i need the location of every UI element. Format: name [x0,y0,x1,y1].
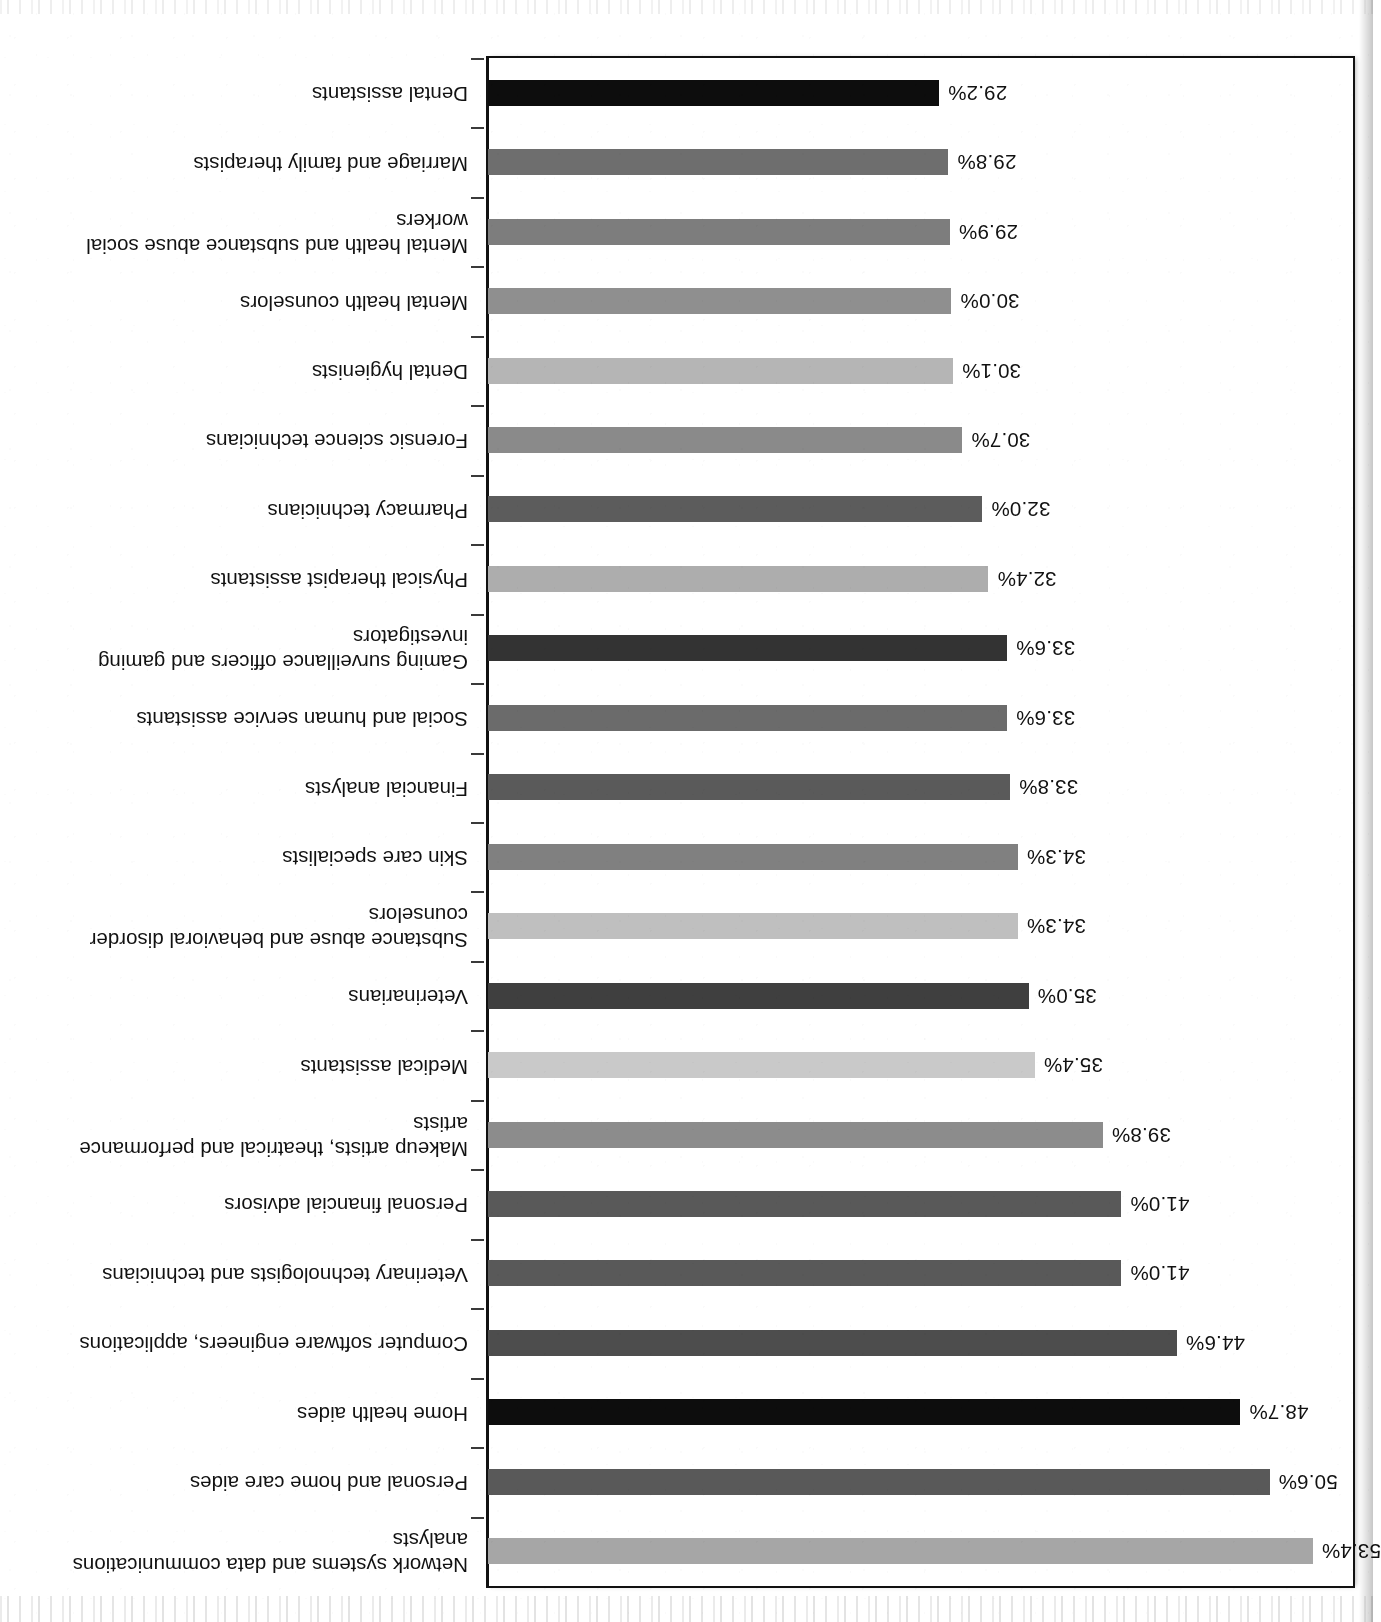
category-label: Mental health counselors [0,291,468,316]
bar [488,844,1018,870]
bar-value-label: 50.6% [1279,1470,1338,1494]
axis-tick [471,58,484,60]
bar [488,705,1007,731]
axis-tick [471,127,484,129]
axis-tick [471,1378,484,1380]
category-label: Skin care specialists [0,846,468,871]
category-label: Physical therapist assistants [0,568,468,593]
category-label: Veterinary technologists and technicians [0,1263,468,1288]
bar-row: 50.6% [488,1447,1353,1516]
bar-row: 30.0% [488,266,1353,335]
axis-tick [471,891,484,893]
bar-row: 44.6% [488,1308,1353,1377]
bar-row: 29.8% [488,127,1353,196]
bar [488,80,939,106]
category-label: Network systems and data communications … [0,1528,468,1578]
bar-value-label: 30.7% [971,428,1030,452]
bar-row: 30.1% [488,336,1353,405]
category-label: Gaming surveillance officers and gaming … [0,625,468,675]
bar-row: 33.6% [488,683,1353,752]
category-label: Dental assistants [0,82,468,107]
bar-row: 35.0% [488,961,1353,1030]
axis-tick [471,405,484,407]
scan-bleed-bottom [0,0,1373,14]
bar [488,427,962,453]
bar-row: 34.3% [488,822,1353,891]
bar-row: 33.8% [488,753,1353,822]
axis-tick [471,197,484,199]
category-label: Financial analysts [0,777,468,802]
bar-value-label: 44.6% [1186,1331,1245,1355]
bar-value-label: 33.8% [1019,775,1078,799]
category-label: Veterinarians [0,985,468,1010]
bar-value-label: 33.6% [1016,706,1075,730]
bar-value-label: 29.9% [959,220,1018,244]
bar [488,1538,1313,1564]
bar [488,774,1010,800]
bar-row: 39.8% [488,1100,1353,1169]
axis-tick [471,544,484,546]
bar-value-label: 34.3% [1027,845,1086,869]
bar-row: 34.3% [488,891,1353,960]
bar-row: 32.4% [488,544,1353,613]
bar-value-label: 35.4% [1044,1053,1103,1077]
bar-value-label: 41.0% [1130,1261,1189,1285]
bar-value-label: 48.7% [1249,1400,1308,1424]
scan-edge-shadow [1359,0,1373,1622]
bar-row: 32.0% [488,475,1353,544]
bar [488,983,1029,1009]
bar-row: 35.4% [488,1030,1353,1099]
bar-row: 29.9% [488,197,1353,266]
bar-value-label: 29.2% [948,81,1007,105]
axis-tick [471,753,484,755]
category-label: Medical assistants [0,1055,468,1080]
bar-value-label: 33.6% [1016,636,1075,660]
bar [488,1469,1270,1495]
bar-value-label: 41.0% [1130,1192,1189,1216]
axis-tick [471,1517,484,1519]
category-label: Dental hygienists [0,360,468,385]
bar-value-label: 32.4% [997,567,1056,591]
bar [488,219,950,245]
category-label: Social and human service assistants [0,707,468,732]
axis-tick [471,1239,484,1241]
bar [488,913,1018,939]
bar [488,1191,1121,1217]
axis-tick [471,336,484,338]
bar-plot-area: 53.4%50.6%48.7%44.6%41.0%41.0%39.8%35.4%… [488,58,1353,1586]
category-label: Mental health and substance abuse social… [0,209,468,259]
bar-row: 33.6% [488,614,1353,683]
category-label: Personal financial advisors [0,1194,468,1219]
bar-value-label: 32.0% [991,497,1050,521]
axis-tick [471,1308,484,1310]
bar [488,1399,1240,1425]
category-label: Makeup artists, theatrical and performan… [0,1112,468,1162]
category-label: Substance abuse and behavioral disorder … [0,903,468,953]
category-axis-ticks [470,56,486,1588]
bar-value-label: 35.0% [1038,984,1097,1008]
bar-row: 48.7% [488,1378,1353,1447]
bar [488,1122,1103,1148]
axis-tick [471,683,484,685]
bar-value-label: 53.4% [1322,1539,1381,1563]
category-label: Home health aides [0,1402,468,1427]
category-label: Marriage and family therapists [0,152,468,177]
bar-value-label: 39.8% [1112,1123,1171,1147]
axis-tick [471,822,484,824]
bar-row: 41.0% [488,1169,1353,1238]
bar [488,149,948,175]
bar [488,358,953,384]
bar [488,635,1007,661]
bar [488,288,951,314]
axis-tick [471,961,484,963]
bar-row: 53.4% [488,1517,1353,1586]
category-label: Personal and home care aides [0,1471,468,1496]
bar-row: 29.2% [488,58,1353,127]
bar [488,496,982,522]
bar-value-label: 34.3% [1027,914,1086,938]
axis-tick [471,1100,484,1102]
chart-plot-frame: 53.4%50.6%48.7%44.6%41.0%41.0%39.8%35.4%… [486,56,1355,1588]
category-label: Forensic science technicians [0,430,468,455]
bar [488,1052,1035,1078]
